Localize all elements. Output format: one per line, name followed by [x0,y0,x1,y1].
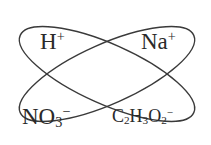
h-base2: H [130,106,143,126]
label-nitrate: NO3− [22,104,70,129]
na-base: Na [141,29,168,54]
no3-charge: − [62,103,70,119]
label-h-plus: H+ [40,29,65,53]
label-na-plus: Na+ [141,29,176,53]
h-charge: + [57,28,65,44]
o-base: O [148,106,161,126]
c-base: C [112,106,124,126]
na-charge: + [168,28,176,44]
ion-diagram: H+ Na+ NO3− C2H3O2− [0,0,211,145]
acetate-charge: − [167,106,173,118]
no3-base: NO [22,104,55,129]
label-acetate: C2H3O2− [112,107,173,127]
h-base: H [40,29,57,54]
